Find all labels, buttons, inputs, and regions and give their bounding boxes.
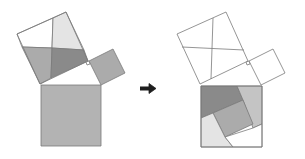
right-figure-after <box>177 12 285 147</box>
leg-a-piece-3 <box>22 47 52 84</box>
leg-a-piece-2 <box>52 12 84 50</box>
left-figure-before <box>17 12 125 146</box>
arrow-head <box>149 84 156 94</box>
right-angle-marker <box>86 61 90 65</box>
hypotenuse-square <box>41 85 101 146</box>
leg-a-piece-4 <box>51 48 88 78</box>
arrow-icon <box>140 84 156 94</box>
arrow-shaft <box>140 87 150 91</box>
pythagorean-dissection-diagram: Pythagorean theorem dissection proof tra… <box>0 0 305 159</box>
leg-b-square <box>89 49 125 85</box>
diagram-canvas <box>0 0 305 159</box>
leg-b-square-outline <box>249 49 285 85</box>
right-angle-marker <box>246 61 250 65</box>
leg-a-piece-1 <box>17 18 53 48</box>
